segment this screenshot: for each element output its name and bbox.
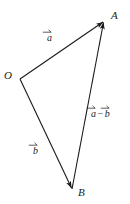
vec-b-letter: b bbox=[33, 146, 38, 156]
minus-operator: − bbox=[96, 108, 105, 119]
vec-a-glyph-2: a bbox=[91, 105, 96, 119]
vec-b-glyph-2: b bbox=[105, 105, 110, 119]
vec-a-letter: a bbox=[47, 33, 52, 43]
vec-b-glyph: b bbox=[33, 142, 38, 156]
point-label-b: B bbox=[78, 187, 85, 198]
vector-label-b: b bbox=[33, 142, 38, 156]
vec-a-letter-2: a bbox=[91, 109, 96, 119]
vector-a-line bbox=[20, 22, 103, 79]
vector-diagram-svg bbox=[0, 0, 130, 204]
vector-diagram-canvas: O A B a b a − b bbox=[0, 0, 130, 204]
point-label-o: O bbox=[4, 70, 12, 81]
vec-a-glyph: a bbox=[47, 29, 52, 43]
vec-b-letter-2: b bbox=[105, 109, 110, 119]
vector-label-a-minus-b: a − b bbox=[91, 105, 110, 119]
point-label-a: A bbox=[111, 10, 118, 21]
vector-b-line bbox=[20, 79, 72, 188]
vector-label-a: a bbox=[47, 29, 52, 43]
